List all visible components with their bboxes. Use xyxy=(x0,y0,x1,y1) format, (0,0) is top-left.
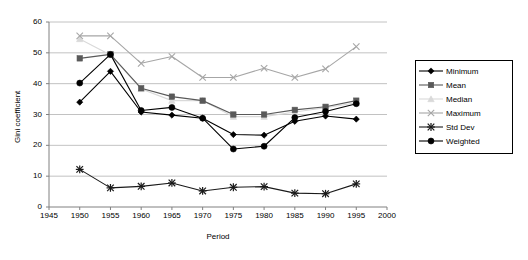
datapoint-mean-1950 xyxy=(77,56,82,61)
legend-marker-std-dev-icon xyxy=(418,120,444,134)
legend-marker-maximum-icon xyxy=(418,106,444,120)
datapoint-mean-1970 xyxy=(200,98,205,103)
datapoint-minimum-1995 xyxy=(353,116,359,122)
datapoint-weighted-1955 xyxy=(107,51,113,57)
datapoint-std-dev-1995 xyxy=(352,180,360,188)
datapoint-std-dev-1975 xyxy=(229,183,237,191)
series-line-maximum xyxy=(80,36,357,78)
datapoint-weighted-1980 xyxy=(261,143,267,149)
series-weighted xyxy=(77,51,360,152)
datapoint-mean-1975 xyxy=(231,112,236,117)
datapoint-maximum-1995 xyxy=(353,43,359,49)
datapoint-mean-1960 xyxy=(138,86,143,91)
legend-item-mean[interactable]: Mean xyxy=(418,78,510,92)
legend-item-weighted[interactable]: Weighted xyxy=(418,134,510,148)
series-line-minimum xyxy=(80,71,357,135)
datapoint-std-dev-1960 xyxy=(137,182,145,190)
datapoint-weighted-1965 xyxy=(169,104,175,110)
datapoint-minimum-1975 xyxy=(230,131,236,137)
datapoint-maximum-1980 xyxy=(261,65,267,71)
legend-label-weighted: Weighted xyxy=(444,137,480,146)
series-line-mean xyxy=(80,54,357,114)
legend-label-mean: Mean xyxy=(444,81,466,90)
legend-label-minimum: Minimum xyxy=(444,67,478,76)
datapoint-mean-1965 xyxy=(169,94,174,99)
series-line-std-dev xyxy=(80,169,357,193)
datapoint-minimum-1965 xyxy=(169,112,175,118)
datapoint-weighted-1995 xyxy=(353,101,359,107)
legend-item-std-dev[interactable]: Std Dev xyxy=(418,120,510,134)
legend-marker-mean-icon xyxy=(418,78,444,92)
legend-item-minimum[interactable]: Minimum xyxy=(418,64,510,78)
series-line-weighted xyxy=(80,54,357,149)
series-minimum xyxy=(77,68,360,138)
legend-marker-minimum-icon xyxy=(418,64,444,78)
legend-item-maximum[interactable]: Maximum xyxy=(418,106,510,120)
datapoint-minimum-1980 xyxy=(261,132,267,138)
legend-label-maximum: Maximum xyxy=(444,109,481,118)
datapoint-std-dev-1965 xyxy=(168,179,176,187)
series-maximum xyxy=(77,33,360,81)
datapoint-std-dev-1950 xyxy=(76,165,84,173)
series-std-dev xyxy=(76,165,360,197)
legend: MinimumMeanMedianMaximumStd DevWeighted xyxy=(415,60,513,154)
legend-item-median[interactable]: Median xyxy=(418,92,510,106)
datapoint-std-dev-1990 xyxy=(322,190,330,198)
datapoint-std-dev-1980 xyxy=(260,183,268,191)
datapoint-std-dev-1955 xyxy=(107,184,115,192)
datapoint-maximum-1990 xyxy=(322,66,328,72)
legend-marker-median-icon xyxy=(418,92,444,106)
datapoint-weighted-1975 xyxy=(230,146,236,152)
series-mean xyxy=(77,52,359,118)
datapoint-mean-1980 xyxy=(261,112,266,117)
datapoint-std-dev-1985 xyxy=(291,189,299,197)
datapoint-mean-1985 xyxy=(292,107,297,112)
chart-figure: Gini coefficient Period 0102030405060 19… xyxy=(0,0,528,260)
legend-marker-weighted-icon xyxy=(418,134,444,148)
datapoint-std-dev-1970 xyxy=(199,187,207,195)
datapoint-weighted-1950 xyxy=(77,80,83,86)
datapoint-maximum-1985 xyxy=(292,74,298,80)
legend-label-median: Median xyxy=(444,95,472,104)
legend-label-std-dev: Std Dev xyxy=(444,123,474,132)
